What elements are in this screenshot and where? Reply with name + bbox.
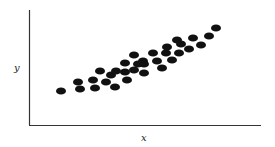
data-point <box>120 59 130 66</box>
data-point <box>176 40 186 47</box>
data-point <box>162 43 172 50</box>
data-point <box>122 76 132 83</box>
data-point <box>204 32 214 39</box>
data-point <box>174 49 184 56</box>
data-point <box>110 83 120 90</box>
data-points <box>56 24 221 94</box>
data-point <box>139 60 149 67</box>
data-point <box>95 67 105 74</box>
x-axis-label: x <box>141 132 147 143</box>
data-point <box>152 57 162 64</box>
data-point <box>120 68 130 75</box>
data-point <box>188 34 198 41</box>
data-point <box>101 78 111 85</box>
data-point <box>148 49 158 56</box>
data-point <box>111 67 121 74</box>
data-point <box>56 87 66 94</box>
data-point <box>211 24 221 31</box>
y-axis-label: y <box>13 62 20 73</box>
data-point <box>88 76 98 83</box>
data-point <box>184 45 194 52</box>
data-point <box>139 69 149 76</box>
data-point <box>73 78 83 85</box>
data-point <box>157 64 167 71</box>
scatter-chart: y x <box>0 0 275 147</box>
data-point <box>90 84 100 91</box>
data-point <box>196 41 206 48</box>
data-point <box>75 85 85 92</box>
data-point <box>129 51 139 58</box>
data-point <box>167 56 177 63</box>
